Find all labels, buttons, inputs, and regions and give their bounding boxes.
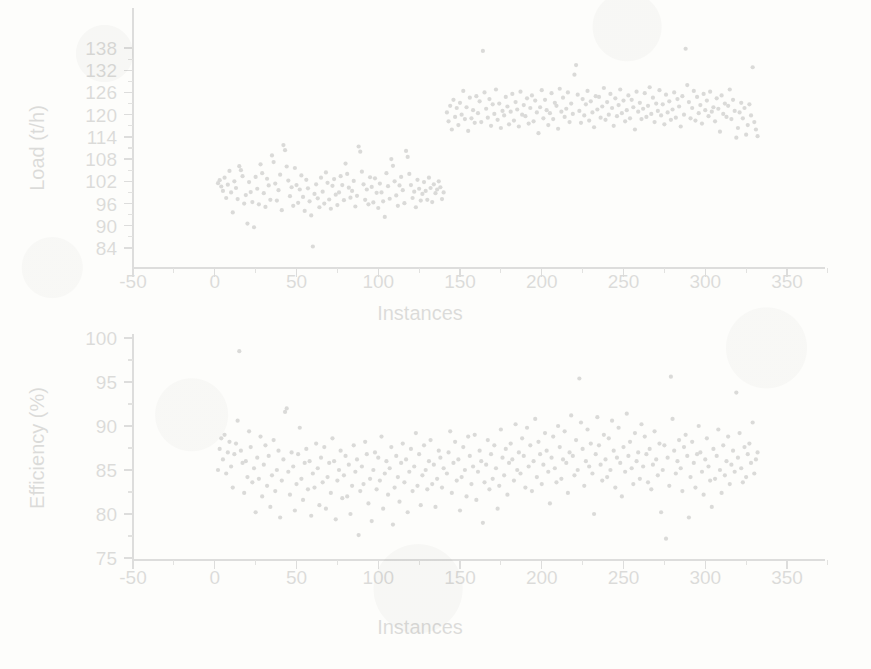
data-point [373,176,377,180]
data-point [358,489,362,493]
data-point [222,176,226,180]
data-point [561,96,565,100]
data-point [461,89,465,93]
data-point [445,110,449,114]
data-point [711,105,715,109]
y-tick-label: 75 [96,548,117,569]
data-point [505,493,509,497]
data-point [263,443,267,447]
data-point [558,87,562,91]
data-point [527,121,531,125]
data-point [610,106,614,110]
data-point [280,208,284,212]
data-point [698,450,702,454]
data-point [525,96,529,100]
data-point [536,131,540,135]
data-point [404,149,408,153]
data-point [352,443,356,447]
data-point [409,183,413,187]
data-point [487,487,491,491]
data-point [393,179,397,183]
data-point [525,426,529,430]
data-point [747,442,751,446]
data-point [666,456,670,460]
data-point [549,91,553,95]
data-point [664,537,668,541]
data-point [685,454,689,458]
data-point [322,445,326,449]
data-point [375,487,379,491]
data-point [657,442,661,446]
data-point [509,442,513,446]
data-point [491,102,495,106]
data-point [291,464,295,468]
data-point [348,512,352,516]
data-point [240,174,244,178]
data-point [285,164,289,168]
data-point [693,118,697,122]
data-point [428,438,432,442]
data-point [227,440,231,444]
data-point [466,434,470,438]
data-point [749,113,753,117]
data-point [404,457,408,461]
data-point [615,114,619,118]
data-point [670,417,674,421]
data-point [307,459,311,463]
data-point [481,49,485,53]
data-point [242,201,246,205]
data-point [383,215,387,219]
data-point [473,121,477,125]
data-point [312,486,316,490]
data-point [605,475,609,479]
data-point [255,456,259,460]
data-point [657,88,661,92]
data-point [504,447,508,451]
x-tick-label: 350 [771,271,803,292]
data-point [533,417,537,421]
data-point [567,120,571,124]
data-point [626,93,630,97]
data-point [747,102,751,106]
data-point [288,493,292,497]
data-point [474,498,478,502]
data-point [339,174,343,178]
data-point [636,110,640,114]
data-point [731,98,735,102]
data-point [306,186,310,190]
data-point [486,116,490,120]
data-point [226,450,230,454]
data-point [397,500,401,504]
data-point [296,201,300,205]
data-point [662,443,666,447]
data-point [303,209,307,213]
x-axis-title: Instances [377,616,463,638]
data-point [636,450,640,454]
data-point [286,470,290,474]
data-point [631,482,635,486]
data-point [463,468,467,472]
data-point [478,99,482,103]
data-point [309,514,313,518]
data-point [442,190,446,194]
data-point [448,429,452,433]
data-point [669,118,673,122]
data-point [649,112,653,116]
data-point [661,102,665,106]
data-point [661,468,665,472]
data-point [343,161,347,165]
data-point [541,116,545,120]
data-point [669,375,673,379]
data-point [420,473,424,477]
data-point [572,73,576,77]
data-point [679,466,683,470]
data-point [513,422,517,426]
data-point [365,452,369,456]
data-point [522,454,526,458]
data-point [574,63,578,67]
data-point [376,206,380,210]
data-point [479,120,483,124]
data-point [569,413,573,417]
x-tick-label: 300 [689,567,721,588]
data-point [641,464,645,468]
